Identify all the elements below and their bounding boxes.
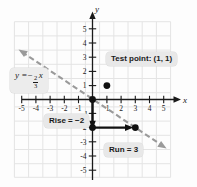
equation-sign: − bbox=[27, 70, 32, 80]
line-arrowhead-upper-left bbox=[19, 50, 28, 57]
graph-canvas: -5 -4 -3 -2 -1 1 2 3 4 5 5 4 3 2 1 -1 -2… bbox=[0, 0, 197, 187]
equation-callout: y =−23x bbox=[10, 68, 48, 93]
y-tick-label: 1 bbox=[83, 81, 87, 90]
y-tick-label: -3 bbox=[80, 138, 86, 147]
point-run-end bbox=[132, 124, 139, 131]
equation-fraction: 23 bbox=[33, 75, 38, 89]
x-axis-arrowhead bbox=[174, 96, 182, 102]
x-tick-label: 4 bbox=[148, 104, 152, 113]
point-rise-end bbox=[89, 124, 96, 131]
y-tick-label: -4 bbox=[80, 152, 86, 161]
fraction-denominator: 3 bbox=[33, 83, 38, 90]
y-tick-label: -5 bbox=[80, 166, 86, 175]
point-test-point bbox=[104, 82, 111, 89]
x-tick-label: 2 bbox=[119, 104, 123, 113]
x-tick-label: -3 bbox=[47, 104, 53, 113]
y-tick-label: 3 bbox=[83, 53, 87, 62]
rise-callout: Rise = −2 bbox=[44, 114, 89, 128]
x-tick-label: 1 bbox=[106, 104, 110, 113]
x-axis-label: x bbox=[182, 95, 187, 105]
test-point-callout: Test point: (1, 1) bbox=[106, 52, 177, 66]
line-arrowhead-lower-right bbox=[157, 141, 166, 148]
x-tick-label: 5 bbox=[162, 104, 166, 113]
x-tick-label: -4 bbox=[33, 104, 39, 113]
x-tick-label: -5 bbox=[19, 104, 25, 113]
y-tick-label: 4 bbox=[83, 39, 87, 48]
y-axis-label: y bbox=[94, 4, 99, 14]
y-tick-label: 5 bbox=[83, 25, 87, 34]
run-callout: Run = 3 bbox=[104, 143, 143, 157]
point-origin bbox=[89, 96, 96, 103]
run-segment bbox=[93, 124, 134, 131]
equation-lhs: y = bbox=[15, 70, 27, 80]
coordinate-plane-figure: -5 -4 -3 -2 -1 1 2 3 4 5 5 4 3 2 1 -1 -2… bbox=[0, 0, 197, 187]
x-tick-label: 3 bbox=[133, 104, 137, 113]
equation-variable: x bbox=[39, 70, 43, 80]
x-tick-label: -2 bbox=[61, 104, 67, 113]
axes bbox=[22, 16, 176, 180]
y-tick-label: 2 bbox=[83, 67, 87, 76]
